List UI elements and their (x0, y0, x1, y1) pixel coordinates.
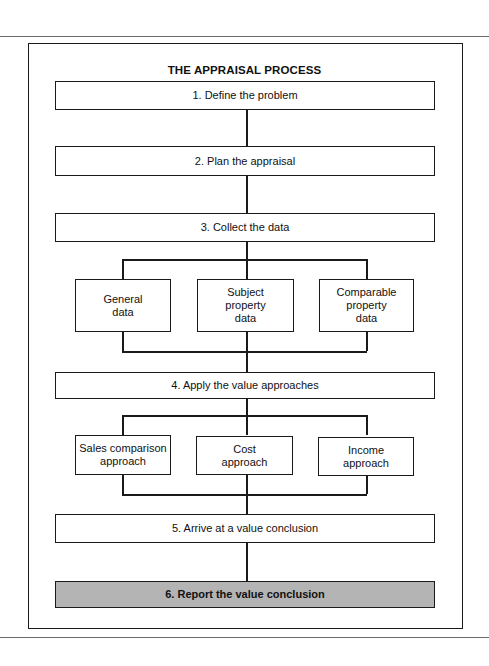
income-to-merge (366, 474, 368, 494)
data-type-line: data (103, 306, 142, 319)
approach-branch-bottom (122, 494, 367, 496)
step-5-box: 5. Arrive at a value conclusion (55, 514, 435, 543)
merge-to-4 (246, 351, 248, 372)
approach-line: Income (343, 444, 389, 457)
step-1-box: 1. Define the problem (55, 81, 435, 110)
branch-to-subject (246, 259, 248, 279)
cost-to-merge (246, 474, 248, 494)
connector-2-3 (246, 175, 248, 214)
data-type-line: General (103, 293, 142, 306)
step-3-label: 3. Collect the data (201, 221, 290, 234)
step-5-label: 5. Arrive at a value conclusion (172, 522, 318, 535)
approach-branch-top (122, 415, 367, 417)
diagram-title: THE APPRAISAL PROCESS (0, 64, 489, 76)
general-to-merge (122, 331, 124, 351)
data-type-line: Comparable (337, 286, 397, 299)
branch-to-income (366, 415, 368, 435)
approach-cost: Cost approach (196, 436, 293, 475)
branch-to-sales (122, 415, 124, 435)
data-type-general: General data (75, 279, 171, 332)
step-4-label: 4. Apply the value approaches (171, 379, 318, 392)
bottom-rule (0, 637, 489, 638)
data-type-subject-property: Subject property data (197, 279, 294, 332)
approach-line: approach (222, 456, 268, 469)
data-type-line: data (337, 312, 397, 325)
connector-3-branch (246, 241, 248, 259)
approach-income: Income approach (318, 437, 414, 476)
connector-5-6 (246, 542, 248, 581)
data-type-line: property (225, 299, 265, 312)
approach-line: Cost (222, 443, 268, 456)
merge-to-5 (246, 494, 248, 514)
step-6-label: 6. Report the value conclusion (165, 588, 325, 601)
approach-line: approach (79, 455, 166, 468)
data-branch-top (122, 259, 367, 261)
connector-4-branch (246, 398, 248, 415)
connector-1-2 (246, 109, 248, 146)
step-1-label: 1. Define the problem (192, 89, 297, 102)
approach-line: Sales comparison (79, 442, 166, 455)
approach-sales-comparison: Sales comparison approach (75, 435, 171, 475)
step-4-box: 4. Apply the value approaches (55, 372, 435, 399)
subject-to-merge (246, 331, 248, 351)
comparable-to-merge (366, 331, 368, 351)
data-type-comparable-property: Comparable property data (319, 279, 414, 332)
step-2-label: 2. Plan the appraisal (195, 155, 295, 168)
approach-line: approach (343, 457, 389, 470)
branch-to-cost (246, 415, 248, 435)
top-rule (0, 36, 489, 37)
step-2-box: 2. Plan the appraisal (55, 146, 435, 176)
data-type-line: property (337, 299, 397, 312)
step-3-box: 3. Collect the data (55, 213, 435, 242)
branch-to-general (122, 259, 124, 279)
data-type-line: data (225, 312, 265, 325)
step-6-box: 6. Report the value conclusion (55, 581, 435, 608)
sales-to-merge (122, 474, 124, 494)
data-branch-bottom (122, 351, 367, 353)
data-type-line: Subject (225, 286, 265, 299)
branch-to-comparable (366, 259, 368, 279)
